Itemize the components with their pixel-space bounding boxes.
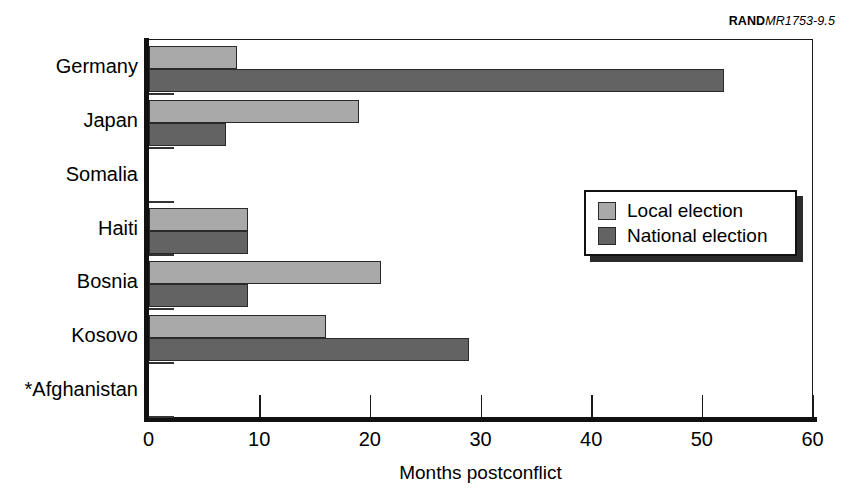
bar-kosovo-national[interactable] — [149, 338, 470, 361]
figure-id: RANDMR1753-9.5 — [729, 14, 835, 28]
category-separator-tick — [149, 93, 174, 95]
category-label-kosovo: Kosovo — [0, 325, 138, 345]
category-separator-tick — [149, 254, 174, 256]
x-tick-label-60: 60 — [801, 428, 823, 450]
bar-germany-national[interactable] — [149, 69, 724, 92]
x-tick-10 — [259, 395, 261, 417]
bar-japan-national[interactable] — [149, 123, 226, 146]
figure-id-number: MR1753-9.5 — [765, 14, 835, 28]
bar-japan-local[interactable] — [149, 100, 359, 123]
x-tick-label-50: 50 — [691, 428, 713, 450]
x-axis-title: Months postconflict — [148, 462, 813, 484]
figure-container: RANDMR1753-9.5 GermanyJapanSomaliaHaitiB… — [0, 0, 853, 499]
x-tick-30 — [481, 395, 483, 417]
figure-id-brand: RAND — [729, 14, 766, 28]
bar-haiti-local[interactable] — [149, 208, 249, 231]
x-tick-50 — [702, 395, 704, 417]
x-axis-tick-labels: 0102030405060 — [0, 428, 853, 456]
x-tick-label-40: 40 — [580, 428, 602, 450]
x-tick-label-10: 10 — [248, 428, 270, 450]
x-tick-label-30: 30 — [469, 428, 491, 450]
x-tick-20 — [370, 395, 372, 417]
category-separator-tick — [149, 147, 174, 149]
x-tick-60 — [813, 395, 815, 417]
bar-kosovo-local[interactable] — [149, 315, 326, 338]
category-separator-tick — [149, 308, 174, 310]
x-tick-label-20: 20 — [359, 428, 381, 450]
bar-group-japan — [149, 100, 813, 148]
category-label-haiti: Haiti — [0, 218, 138, 238]
bar-germany-local[interactable] — [149, 46, 238, 69]
category-separator-tick — [149, 362, 174, 364]
x-tick-label-0: 0 — [143, 428, 154, 450]
chart-legend: Local election National election — [584, 190, 797, 256]
legend-label-local: Local election — [627, 201, 743, 220]
legend-swatch-local-icon — [598, 202, 616, 220]
category-axis-labels: GermanyJapanSomaliaHaitiBosniaKosovo*Afg… — [0, 40, 138, 417]
bar-bosnia-local[interactable] — [149, 261, 381, 284]
category-label-somalia: Somalia — [0, 164, 138, 184]
category-label-bosnia: Bosnia — [0, 271, 138, 291]
bar-group-germany — [149, 46, 813, 94]
category-separator-tick — [149, 201, 174, 203]
legend-item-local[interactable]: Local election — [598, 198, 795, 223]
x-axis-ticks — [149, 417, 813, 418]
legend-item-national[interactable]: National election — [598, 223, 795, 248]
legend-swatch-national-icon — [598, 227, 616, 245]
bar-group-kosovo — [149, 315, 813, 363]
legend-label-national: National election — [627, 226, 767, 245]
bar-group-bosnia — [149, 261, 813, 309]
x-tick-40 — [591, 395, 593, 417]
bar-haiti-national[interactable] — [149, 231, 249, 254]
category-label-japan: Japan — [0, 110, 138, 130]
category-label-afghanistan: *Afghanistan — [0, 379, 138, 399]
category-label-germany: Germany — [0, 56, 138, 76]
bar-bosnia-national[interactable] — [149, 284, 249, 307]
